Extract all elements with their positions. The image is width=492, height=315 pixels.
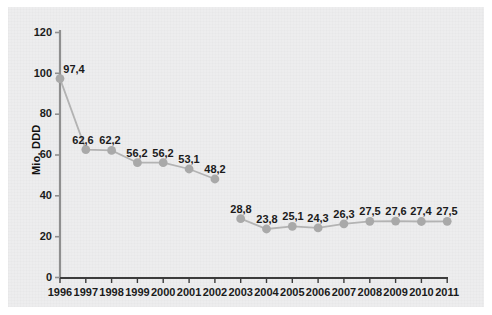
chart-svg (0, 0, 492, 315)
y-tick-label: 0 (18, 271, 52, 283)
y-tick-label: 120 (18, 26, 52, 38)
data-point (56, 74, 65, 83)
data-point (314, 224, 323, 233)
data-label: 97,4 (57, 63, 91, 75)
data-point (365, 217, 374, 226)
data-point (391, 217, 400, 226)
data-point (417, 217, 426, 226)
data-point (159, 158, 168, 167)
y-tick-label: 80 (18, 107, 52, 119)
data-point (211, 175, 220, 184)
data-point (107, 146, 116, 155)
data-label: 27,5 (430, 205, 464, 217)
data-point (133, 158, 142, 167)
x-tick-label: 2011 (430, 286, 464, 298)
data-point (185, 165, 194, 174)
chart-figure: Mio. DDD (0, 0, 492, 315)
y-tick-label: 40 (18, 189, 52, 201)
data-point (262, 225, 271, 234)
data-label: 62,2 (93, 134, 127, 146)
y-tick-label: 100 (18, 67, 52, 79)
data-point (236, 214, 245, 223)
y-tick-label: 20 (18, 230, 52, 242)
y-tick-label: 60 (18, 148, 52, 160)
plot-area: 0 20 40 60 80 100 120 1996 1997 1998 199… (0, 0, 492, 315)
data-point (443, 217, 452, 226)
data-point (288, 222, 297, 231)
data-point (340, 219, 349, 228)
data-point (81, 145, 90, 154)
data-label: 48,2 (198, 163, 232, 175)
